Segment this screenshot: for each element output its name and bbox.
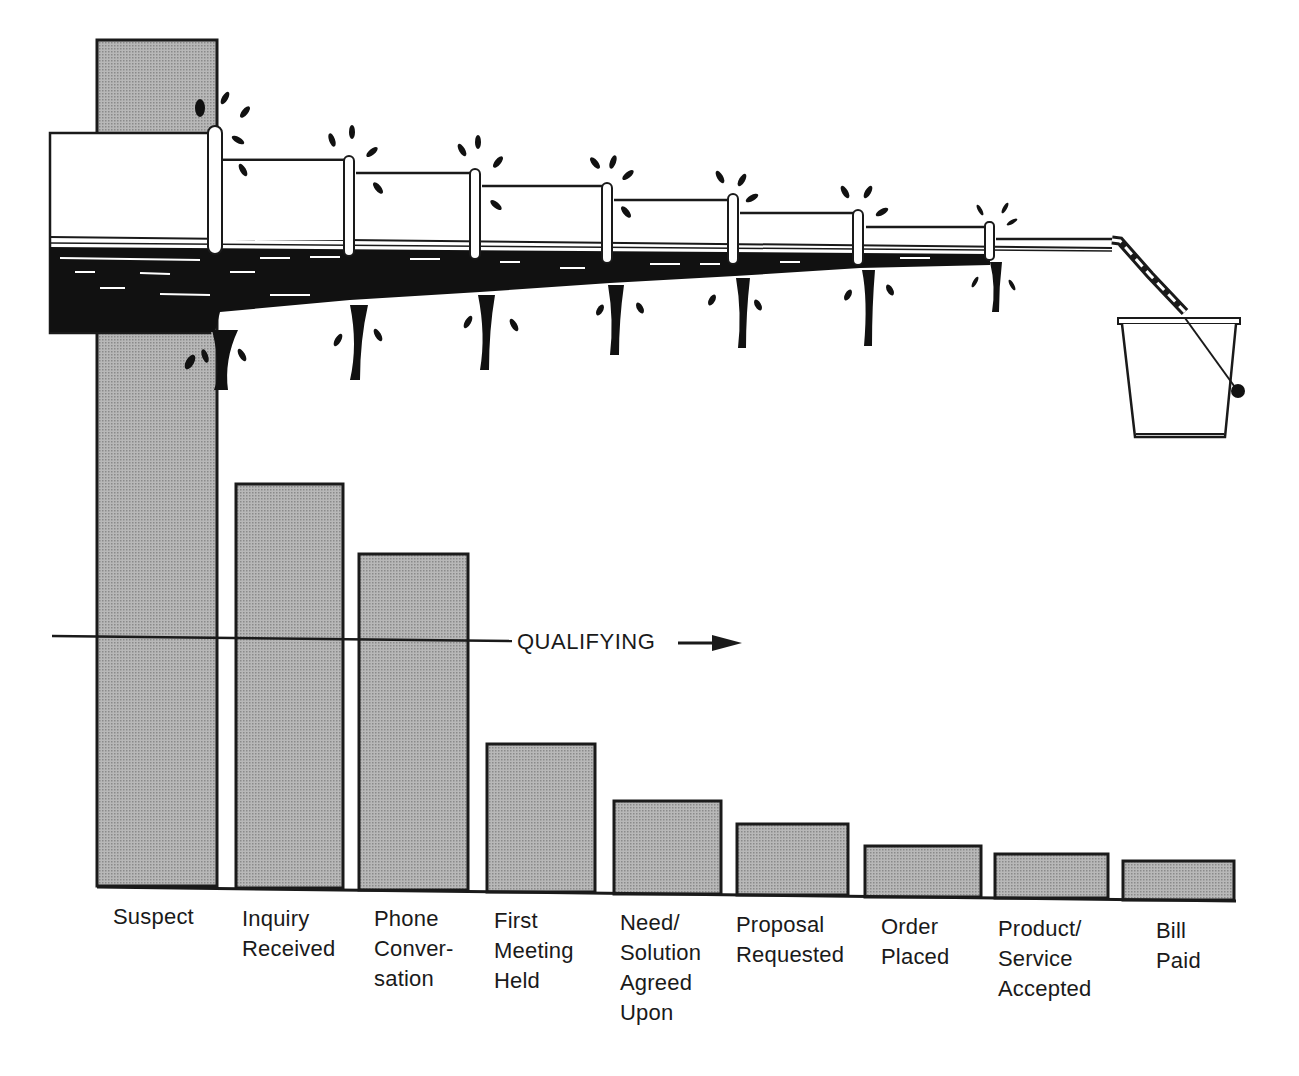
sales-pipeline-chart: SuspectInquiry ReceivedPhone Conver- sat… — [0, 0, 1299, 1076]
category-label: Product/ Service Accepted — [998, 914, 1091, 1004]
bar-order-placed — [865, 846, 981, 897]
category-label: Suspect — [113, 902, 194, 932]
bar-bill-paid — [1123, 861, 1234, 900]
category-label: Inquiry Received — [242, 904, 335, 964]
bar-proposal-requested — [737, 824, 848, 895]
bar-need-solution-agreed-upon — [614, 801, 721, 894]
leaky-pipeline-illustration — [50, 90, 1245, 437]
category-label: Need/ Solution Agreed Upon — [620, 908, 701, 1028]
category-label: First Meeting Held — [494, 906, 574, 996]
bar-product-service-accepted — [995, 854, 1108, 898]
qualifying-label: QUALIFYING — [517, 629, 655, 655]
bar-inquiry-received — [236, 484, 343, 888]
category-label: Proposal Requested — [736, 910, 844, 970]
category-label: Order Placed — [881, 912, 949, 972]
category-label: Phone Conver- sation — [374, 904, 454, 994]
bar-phone-conversation — [359, 554, 468, 890]
category-label: Bill Paid — [1156, 916, 1201, 976]
bucket-icon — [1118, 318, 1245, 437]
bar-first-meeting-held — [487, 744, 595, 892]
